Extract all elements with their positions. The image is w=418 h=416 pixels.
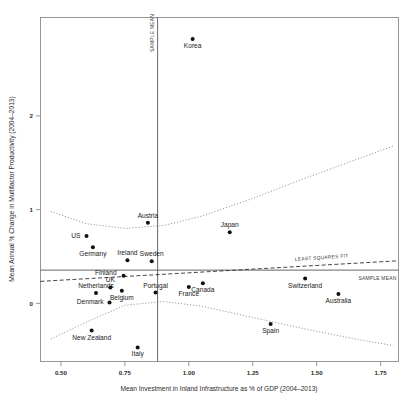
data-point-marker[interactable] [108,300,112,304]
x-tick-label: 1.00 [183,369,196,376]
data-point-label: Ireland [117,249,137,256]
data-point-label: Finland [95,269,117,276]
data-point-marker[interactable] [336,292,340,296]
data-point-marker[interactable] [85,234,89,238]
data-point-marker[interactable] [91,245,95,249]
data-point-marker[interactable] [228,230,232,234]
x-tick-label: 0.50 [55,369,68,376]
data-point-marker[interactable] [154,291,158,295]
data-point-marker[interactable] [187,285,191,289]
data-point-label: Portugal [143,282,168,290]
y-tick-label: 2 [30,112,34,119]
sample-mean-vertical-annotation: SAMPLE MEAN [150,14,155,52]
data-point-marker[interactable] [150,259,154,263]
data-point-label: Germany [79,250,107,258]
data-point-label: Belgium [110,294,134,302]
x-tick-label: 1.75 [375,369,388,376]
data-point-marker[interactable] [136,345,140,349]
figure-background [0,0,418,416]
data-point-label: New Zealand [72,334,111,341]
data-point-label: Spain [262,327,279,335]
data-point-marker[interactable] [90,329,94,333]
data-point-label: US [71,232,81,239]
scatter-plot-figure: 0.500.751.001.251.501.75012 KoreaAustria… [0,0,418,416]
x-tick-label: 0.75 [119,369,132,376]
data-point-marker[interactable] [269,322,273,326]
x-tick-label: 1.25 [247,369,260,376]
data-point-label: Australia [326,297,352,304]
data-point-label: Sweden [140,250,164,257]
data-point-label: Italy [132,350,145,358]
data-point-marker[interactable] [125,258,129,262]
y-axis-title: Mean Annual % Change in Multifactor Prod… [8,96,16,281]
data-point-label: Japan [221,221,239,229]
data-point-marker[interactable] [94,291,98,295]
data-point-marker[interactable] [191,37,195,41]
data-point-label: Denmark [77,298,104,305]
data-point-marker[interactable] [122,274,126,278]
y-tick-label: 1 [30,206,34,213]
x-axis-title: Mean Investment in Inland Infrastructure… [120,385,317,393]
sample-mean-horizontal-annotation: SAMPLE MEAN [358,276,396,281]
data-point-label: Canada [191,286,214,293]
data-point-marker[interactable] [120,289,124,293]
x-tick-label: 1.50 [311,369,324,376]
data-point-label: Switzerland [288,282,322,289]
data-point-marker[interactable] [303,277,307,281]
data-point-label: Netherlands [78,282,114,289]
data-point-marker[interactable] [201,281,205,285]
data-point-marker[interactable] [146,221,150,225]
data-point-label: Korea [184,42,202,49]
chart-canvas: 0.500.751.001.251.501.75012 KoreaAustria… [0,0,418,416]
data-point-label: Austria [138,212,159,219]
y-tick-label: 0 [30,300,34,307]
